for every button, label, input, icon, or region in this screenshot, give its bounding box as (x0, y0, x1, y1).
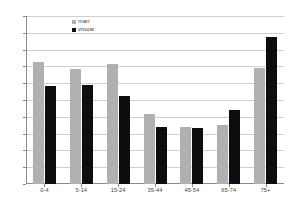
bar-vrouw-65-74[interactable] (229, 110, 240, 184)
x-tick-label-65-74: 65-74 (210, 188, 247, 194)
bar-vrouw-45-54[interactable] (192, 128, 203, 184)
bar-group-15-24 (100, 16, 137, 184)
bar-man-15-24[interactable] (107, 64, 118, 184)
bar-vrouw-5-14[interactable] (82, 85, 93, 184)
x-tick-label-75+: 75+ (247, 188, 284, 194)
legend-label-man: man (78, 19, 90, 25)
legend-label-vrouw: vrouw (78, 27, 94, 33)
bar-man-45-54[interactable] (180, 127, 191, 184)
x-tick-label-45-54: 45-54 (173, 188, 210, 194)
bar-group-75+ (247, 16, 284, 184)
bar-man-65-74[interactable] (217, 125, 228, 184)
plot-area: 020406080100120140160180200 (26, 16, 284, 184)
bar-group-45-54 (173, 16, 210, 184)
legend-item-vrouw: vrouw (72, 27, 94, 33)
bar-man-75+[interactable] (254, 68, 265, 184)
y-tick-mark-0 (23, 184, 26, 185)
bar-chart: 020406080100120140160180200 man vrouw 0-… (0, 0, 292, 217)
bar-man-35-44[interactable] (144, 114, 155, 184)
bar-vrouw-15-24[interactable] (119, 96, 130, 184)
bar-groups (26, 16, 284, 184)
bar-group-65-74 (210, 16, 247, 184)
bar-group-0-4 (26, 16, 63, 184)
x-tick-label-0-4: 0-4 (26, 188, 63, 194)
legend-swatch-man-icon (72, 20, 76, 24)
bar-man-5-14[interactable] (70, 69, 81, 184)
bar-vrouw-0-4[interactable] (45, 86, 56, 184)
bar-group-35-44 (137, 16, 174, 184)
legend-item-man: man (72, 19, 94, 25)
bar-vrouw-35-44[interactable] (156, 127, 167, 184)
bar-vrouw-75+[interactable] (266, 37, 277, 184)
x-tick-label-15-24: 15-24 (100, 188, 137, 194)
bar-man-0-4[interactable] (33, 62, 44, 184)
legend-swatch-vrouw-icon (72, 28, 76, 32)
chart-legend: man vrouw (72, 19, 94, 33)
x-tick-label-35-44: 35-44 (137, 188, 174, 194)
x-tick-label-5-14: 5-14 (63, 188, 100, 194)
bar-group-5-14 (63, 16, 100, 184)
